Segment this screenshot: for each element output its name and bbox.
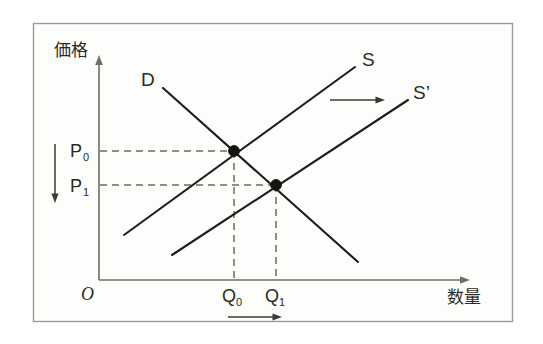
supply-shifted-curve-label: S’: [413, 82, 430, 103]
quantity-tick-q0-subscript: 0: [236, 296, 242, 308]
equilibrium-point-e0: [229, 146, 240, 157]
y-axis-label: 価格: [54, 40, 88, 60]
quantity-tick-q1-base: Q: [265, 286, 279, 306]
quantity-tick-q1-subscript: 1: [279, 296, 285, 308]
supply-demand-figure: 価格 数量 O D S S’ P 0 P 1 Q 0 Q 1: [0, 0, 543, 344]
equilibrium-point-e1: [271, 180, 282, 191]
supply-demand-chart: 価格 数量 O D S S’ P 0 P 1 Q 0 Q 1: [0, 0, 543, 344]
x-axis-label: 数量: [447, 287, 481, 307]
price-tick-p0-base: P: [70, 141, 82, 161]
price-tick-p0-subscript: 0: [83, 151, 89, 163]
price-tick-p1-subscript: 1: [83, 186, 89, 198]
quantity-tick-q0-base: Q: [222, 286, 236, 306]
supply-curve-label: S: [362, 49, 375, 70]
figure-frame: [34, 24, 513, 322]
origin-label: O: [81, 284, 94, 304]
demand-curve-label: D: [141, 69, 155, 90]
price-tick-p1-base: P: [70, 176, 82, 196]
